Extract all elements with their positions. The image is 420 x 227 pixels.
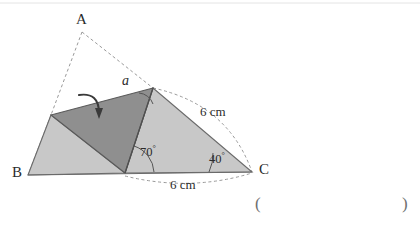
answer-bracket-open: ( — [255, 195, 261, 212]
dimension-label-side-bc: 6 cm — [170, 178, 196, 191]
vertex-label-b: B — [12, 165, 22, 180]
geometry-figure: A B C a 70° 40° 6 cm 6 cm ( ) — [0, 0, 420, 227]
angle-label-alpha: a — [122, 74, 129, 88]
angle-70-unit: ° — [153, 143, 156, 153]
angle-label-70: 70° — [140, 144, 156, 159]
dashed-segment-a-to-apex — [82, 32, 153, 88]
angle-40-value: 40 — [209, 152, 222, 166]
dashed-segment-a-to-foldleft — [51, 32, 82, 115]
angle-label-40: 40° — [209, 151, 225, 166]
dimension-label-side-ac: 6 cm — [200, 105, 226, 118]
answer-bracket-close: ) — [402, 195, 408, 212]
vertex-label-c: C — [259, 162, 269, 177]
vertex-label-a: A — [76, 12, 87, 27]
angle-40-unit: ° — [222, 150, 225, 160]
angle-70-value: 70 — [140, 145, 153, 159]
